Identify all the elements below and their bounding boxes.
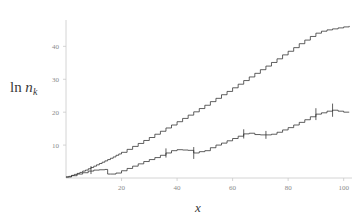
y-axis-title-operator: ln — [10, 79, 22, 95]
x-tick-label: 60 — [229, 184, 237, 192]
lower-staircase-curve — [66, 110, 349, 177]
y-axis-ticks: 10203040 — [52, 43, 66, 150]
x-axis-title: x — [195, 200, 201, 216]
y-axis-title-subscript: k — [33, 86, 38, 97]
x-tick-label: 100 — [338, 184, 349, 192]
y-tick-label: 40 — [52, 43, 60, 51]
x-tick-label: 40 — [174, 184, 182, 192]
y-tick-label: 10 — [52, 142, 60, 150]
chart-figure: 20406080100 10203040 ln nk x — [0, 0, 358, 223]
y-tick-label: 20 — [52, 109, 60, 117]
error-bar-group — [91, 104, 333, 174]
upper-staircase-curve — [66, 26, 349, 177]
x-axis-ticks: 20406080100 — [118, 178, 349, 192]
x-tick-label: 20 — [118, 184, 126, 192]
y-axis-title-variable: n — [25, 79, 33, 95]
chart-canvas: 20406080100 10203040 — [0, 0, 358, 223]
x-tick-label: 80 — [285, 184, 293, 192]
y-axis-title: ln nk — [10, 79, 38, 97]
y-tick-label: 30 — [52, 76, 60, 84]
